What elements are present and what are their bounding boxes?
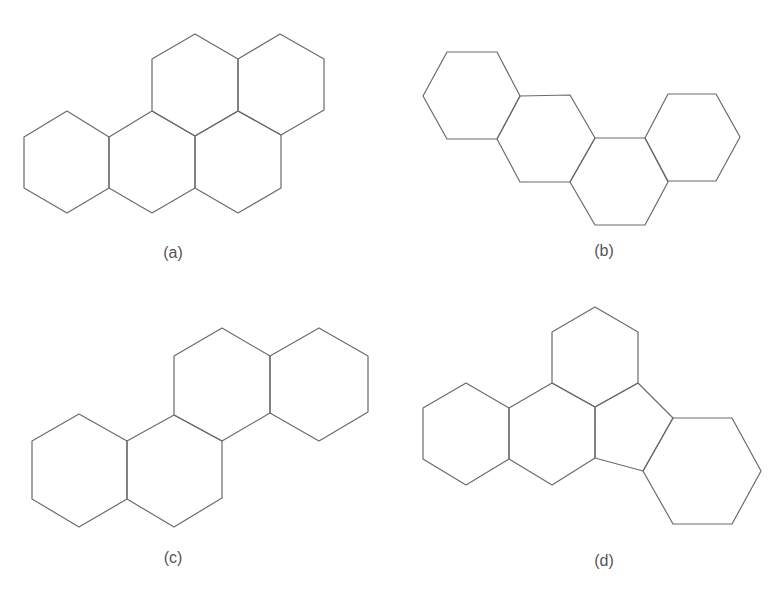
panel-a-hexagon-ring-5 [238,34,324,135]
panel-d-hexagon-ring-1 [552,307,638,407]
panel-b-structure [423,52,740,225]
panel-a-hexagon-ring-1 [24,111,109,213]
panel-d-structure [423,307,761,524]
panel-b-hexagon-ring-3 [570,138,668,225]
panel-b-hexagon-ring-4 [645,94,740,181]
panel-b-hexagon-ring-2 [497,95,595,182]
panel-d-pentagon-ring-4 [595,383,673,471]
panel-d-hexagon-ring-5 [643,418,761,524]
panel-a-hexagon-ring-3 [195,111,281,213]
panel-c-label: (c) [164,549,183,567]
panel-a-hexagon-ring-2 [109,111,195,213]
panel-a-hexagon-ring-4 [152,34,238,136]
panel-c-hexagon-ring-1 [32,414,127,527]
panel-d-label: (d) [594,552,614,570]
panel-b-hexagon-ring-1 [423,52,520,139]
panel-c-hexagon-ring-4 [270,328,368,441]
polycyclic-structures-figure [0,0,782,589]
panel-d-hexagon-ring-2 [423,383,509,485]
panel-c-hexagon-ring-2 [127,415,222,527]
panel-d-hexagon-ring-3 [509,383,595,485]
panel-c-hexagon-ring-3 [174,328,270,441]
panel-a-label: (a) [163,244,183,262]
panel-b-label: (b) [594,242,614,260]
panel-c-structure [32,328,368,527]
panel-a-structure [24,34,324,213]
